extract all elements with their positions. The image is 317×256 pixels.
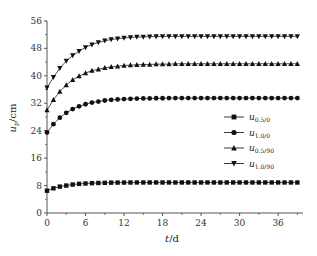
displacement-chart: 08162432404856061218243036 u0.5/0u1.0/0u… bbox=[0, 0, 317, 256]
legend-label: u0.5/0 bbox=[249, 112, 270, 123]
legend-label: u1.0/0 bbox=[249, 128, 270, 139]
x-tick-label: 30 bbox=[234, 218, 246, 228]
x-tick-label: 0 bbox=[44, 218, 50, 228]
y-tick-label: 32 bbox=[31, 98, 42, 108]
x-axis-label: t/d bbox=[165, 233, 179, 244]
legend-item: u1.0/90 bbox=[224, 159, 274, 170]
x-tick-label: 36 bbox=[272, 218, 284, 228]
legend-item: u1.0/0 bbox=[224, 128, 270, 139]
y-axis-label: up/cm bbox=[7, 103, 20, 132]
y-tick-label: 0 bbox=[36, 208, 42, 218]
x-tick-label: 12 bbox=[118, 218, 129, 228]
y-tick-label: 40 bbox=[31, 71, 43, 81]
legend: u0.5/0u1.0/0u0.5/90u1.0/90 bbox=[224, 112, 274, 170]
series-u1-0-90 bbox=[44, 34, 300, 90]
x-tick-label: 18 bbox=[157, 218, 169, 228]
x-tick-label: 6 bbox=[83, 218, 89, 228]
y-tick-label: 8 bbox=[36, 181, 42, 191]
legend-item: u0.5/0 bbox=[224, 112, 270, 123]
y-tick-label: 24 bbox=[31, 126, 43, 136]
legend-label: u1.0/90 bbox=[249, 159, 274, 170]
y-tick-label: 56 bbox=[31, 16, 43, 26]
legend-item: u0.5/90 bbox=[224, 143, 274, 154]
series-u0-5-90 bbox=[44, 61, 300, 112]
axis-labels: up/cm t/d bbox=[7, 103, 179, 244]
legend-label: u0.5/90 bbox=[249, 143, 274, 154]
y-tick-label: 16 bbox=[31, 153, 43, 163]
x-tick-label: 24 bbox=[195, 218, 207, 228]
y-tick-label: 48 bbox=[31, 43, 43, 53]
series-u0-5-0 bbox=[45, 180, 300, 193]
